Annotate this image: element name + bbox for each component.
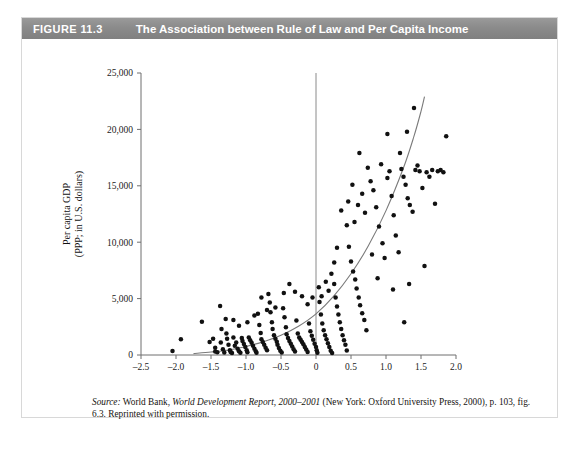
data-point bbox=[211, 336, 216, 341]
data-point bbox=[422, 264, 427, 269]
x-tick-label: –0.5 bbox=[272, 362, 290, 372]
data-point bbox=[281, 306, 286, 311]
data-point bbox=[234, 340, 239, 345]
data-point bbox=[335, 246, 340, 251]
data-point bbox=[270, 320, 275, 325]
data-point bbox=[317, 285, 322, 290]
data-point bbox=[259, 295, 264, 300]
data-point bbox=[353, 277, 358, 282]
data-point bbox=[444, 134, 449, 139]
data-point bbox=[219, 340, 224, 345]
figure-number-label: FIGURE 11.3 bbox=[33, 23, 103, 35]
data-point bbox=[319, 312, 324, 317]
scatter-plot: 05,00010,00015,00020,00025,000 –2.5–2.0–… bbox=[22, 39, 559, 379]
data-point bbox=[399, 167, 404, 172]
data-point bbox=[408, 203, 413, 208]
x-tick-label: 1.0 bbox=[380, 362, 392, 372]
data-point bbox=[326, 288, 331, 293]
data-point bbox=[293, 290, 298, 295]
data-point bbox=[179, 337, 184, 342]
data-point bbox=[305, 302, 310, 307]
data-point bbox=[300, 294, 305, 299]
data-point bbox=[403, 182, 408, 187]
source-text-1: World Bank, bbox=[121, 397, 173, 407]
data-point bbox=[245, 350, 250, 355]
data-point bbox=[321, 328, 326, 333]
data-point bbox=[413, 168, 418, 173]
data-point bbox=[224, 331, 229, 336]
data-point bbox=[354, 286, 359, 291]
source-note: Source: World Bank, World Development Re… bbox=[92, 396, 532, 421]
data-point bbox=[356, 295, 361, 300]
data-point bbox=[358, 303, 363, 308]
data-point bbox=[258, 331, 263, 336]
data-point bbox=[270, 327, 275, 332]
data-point bbox=[315, 350, 320, 355]
data-point bbox=[284, 325, 289, 330]
data-point bbox=[363, 211, 368, 216]
data-point bbox=[364, 328, 369, 333]
chart-area: 05,00010,00015,00020,00025,000 –2.5–2.0–… bbox=[22, 39, 559, 379]
data-point bbox=[324, 337, 329, 342]
x-tick-label: –2.0 bbox=[167, 362, 185, 372]
data-point bbox=[379, 162, 384, 167]
y-tick-label: 10,000 bbox=[107, 238, 133, 248]
data-point bbox=[391, 287, 396, 292]
data-point bbox=[279, 350, 284, 355]
x-tick-label: –1.5 bbox=[202, 362, 220, 372]
figure-card: FIGURE 11.3 The Association between Rule… bbox=[21, 17, 558, 418]
data-point bbox=[329, 272, 334, 277]
data-point bbox=[345, 348, 350, 353]
data-point bbox=[245, 320, 250, 325]
y-tick-label: 0 bbox=[128, 350, 133, 360]
trend-curve bbox=[194, 97, 425, 354]
data-point bbox=[307, 321, 312, 326]
source-label: Source: bbox=[92, 397, 121, 407]
data-point bbox=[371, 188, 376, 193]
data-point bbox=[333, 295, 338, 300]
x-tick-label: 2.0 bbox=[450, 362, 462, 372]
data-point bbox=[394, 233, 399, 238]
data-point bbox=[389, 194, 394, 199]
data-point bbox=[387, 169, 392, 174]
data-point bbox=[218, 304, 223, 309]
data-point bbox=[382, 256, 387, 260]
data-point bbox=[317, 300, 322, 305]
data-point bbox=[342, 338, 347, 343]
data-point bbox=[391, 213, 396, 218]
data-point bbox=[338, 320, 343, 325]
data-point bbox=[405, 129, 410, 134]
data-point bbox=[349, 259, 354, 264]
data-point bbox=[352, 220, 357, 225]
data-point bbox=[345, 223, 350, 228]
data-point bbox=[310, 295, 315, 300]
data-point bbox=[362, 318, 367, 323]
data-point bbox=[412, 106, 417, 111]
data-point bbox=[319, 294, 324, 299]
y-axis-ticks bbox=[137, 73, 141, 355]
data-point bbox=[357, 151, 362, 156]
data-point bbox=[223, 317, 228, 322]
data-point bbox=[405, 196, 410, 201]
x-tick-label: –2.5 bbox=[132, 362, 150, 372]
data-point bbox=[294, 318, 299, 323]
data-point bbox=[370, 252, 375, 256]
data-point bbox=[415, 163, 420, 168]
data-point bbox=[351, 269, 356, 274]
data-point bbox=[296, 331, 301, 336]
data-point bbox=[273, 305, 278, 310]
figure-header-bar: FIGURE 11.3 The Association between Rule… bbox=[22, 18, 557, 39]
data-point bbox=[417, 169, 422, 174]
data-point bbox=[385, 132, 390, 137]
data-point bbox=[238, 350, 243, 355]
data-point bbox=[266, 292, 271, 297]
data-point bbox=[350, 182, 355, 187]
data-point bbox=[347, 244, 352, 249]
data-point bbox=[310, 334, 315, 339]
data-point bbox=[282, 315, 287, 320]
data-point bbox=[326, 341, 331, 346]
data-point bbox=[410, 209, 415, 214]
x-tick-label: –1.0 bbox=[237, 362, 255, 372]
source-title-italic: World Development Report, 2000–2001 bbox=[172, 397, 320, 407]
data-point bbox=[339, 327, 344, 332]
